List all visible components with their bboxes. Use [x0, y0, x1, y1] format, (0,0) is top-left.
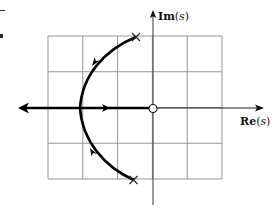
locus-branch-upper — [80, 37, 136, 108]
locus-branch-lower — [80, 108, 134, 180]
pole-lower — [130, 176, 138, 184]
zero-origin — [149, 105, 157, 113]
imag-axis-label: Im(s) — [158, 10, 189, 23]
root-locus-diagram: Im(s) Re(s) — [0, 0, 279, 215]
real-axis-label: Re(s) — [240, 115, 270, 128]
locus-branches — [18, 37, 149, 180]
